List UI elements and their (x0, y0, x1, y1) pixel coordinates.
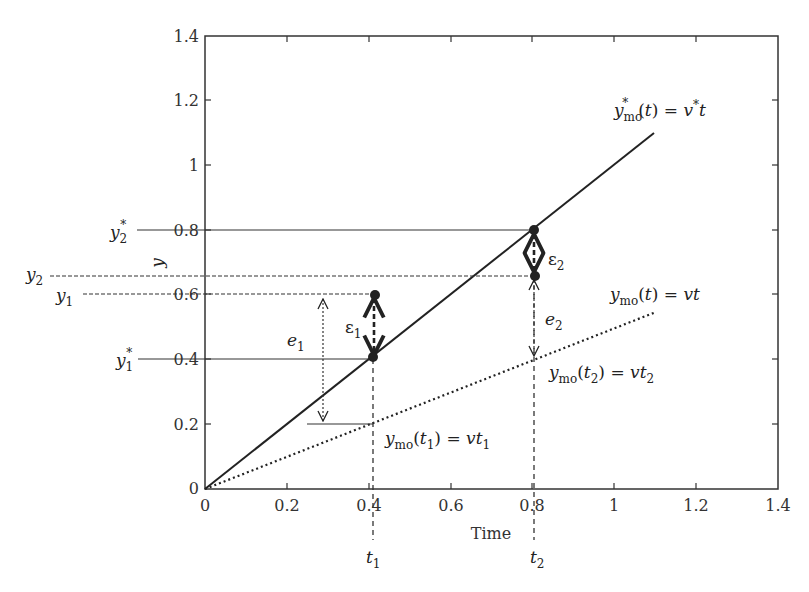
line-y-mo (205, 312, 656, 489)
svg-text:1.2: 1.2 (174, 91, 199, 110)
label-eps2: ε2 (548, 249, 564, 273)
svg-text:0: 0 (189, 479, 199, 498)
svg-text:1.4: 1.4 (174, 27, 199, 46)
svg-text:0.2: 0.2 (274, 496, 299, 515)
svg-text:0.4: 0.4 (356, 496, 381, 515)
label-y-mo-t1-eq: ymo(t1) = vt1 (384, 428, 490, 452)
svg-text:1: 1 (609, 496, 619, 515)
label-y-mo-t2-eq: ymo(t2) = vt2 (548, 362, 654, 386)
label-y1-star: y1* (115, 346, 133, 374)
label-y2-star: y2* (109, 218, 127, 246)
point-y1-star (368, 352, 378, 362)
svg-text:1.2: 1.2 (683, 496, 708, 515)
y-axis-title: y (147, 258, 167, 269)
x-axis-title: Time (471, 524, 511, 543)
svg-text:0.2: 0.2 (174, 415, 199, 434)
svg-text:1: 1 (189, 156, 199, 175)
label-t1: t1 (366, 547, 380, 571)
line-y-star-mo (205, 133, 654, 489)
svg-text:0.8: 0.8 (519, 496, 544, 515)
label-eps1: ε1 (345, 317, 361, 341)
label-e2: e2 (545, 309, 563, 333)
svg-text:0: 0 (200, 496, 210, 515)
x-tick-labels: 0 0.2 0.4 0.6 0.8 1 1.2 1.4 (200, 496, 791, 515)
point-y2-star (529, 225, 539, 235)
label-y2: y2 (25, 264, 43, 288)
chart: 0 0.2 0.4 0.6 0.8 1 1.2 1.4 0 0.2 0.4 0.… (0, 0, 809, 592)
label-e1: e1 (287, 330, 305, 354)
label-y1: y1 (55, 285, 73, 309)
y-tick-labels: 0 0.2 0.4 0.6 0.8 1 1.2 1.4 (174, 27, 199, 498)
point-y2 (530, 271, 540, 281)
point-y1 (370, 290, 380, 300)
label-y-star-mo-eq: ymo*(t) = v*t (613, 96, 706, 124)
svg-text:0.6: 0.6 (438, 496, 463, 515)
svg-text:1.4: 1.4 (765, 496, 790, 515)
label-t2: t2 (530, 547, 544, 571)
label-y-mo-eq: ymo(t) = vt (609, 284, 700, 308)
